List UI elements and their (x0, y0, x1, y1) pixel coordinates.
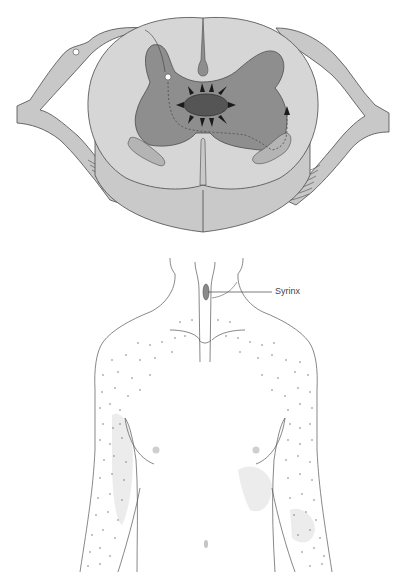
left-nipple (153, 447, 160, 454)
ventral-median-fissure (200, 138, 206, 185)
spine-notch (199, 340, 211, 343)
shaded-regions (112, 414, 315, 543)
spinal-cord-cross-section (0, 0, 406, 250)
spine-column-right (210, 262, 215, 362)
syrinx-cavity (184, 94, 228, 116)
clavicle-right (212, 330, 245, 340)
neck-curve (212, 282, 237, 298)
syringomyelia-figure: Syrinx (0, 0, 406, 583)
dorsal-root-ganglion-neuron (73, 49, 79, 55)
neck-left (80, 258, 175, 572)
neck-right (238, 258, 332, 572)
right-pectoral (256, 418, 285, 464)
syrinx-label: Syrinx (275, 286, 300, 296)
right-nipple (253, 447, 260, 454)
navel (204, 540, 208, 548)
dorsal-horn-neuron (165, 74, 171, 80)
spine-column-left (195, 262, 200, 362)
torso-diagram (0, 250, 406, 583)
